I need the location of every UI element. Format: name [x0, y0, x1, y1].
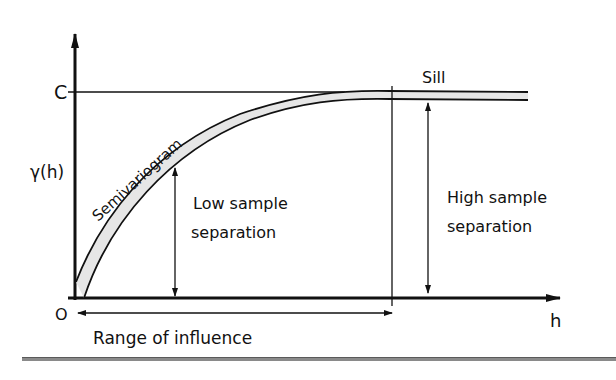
low-separation-label-line2: separation — [191, 223, 276, 242]
y-axis-label: γ(h) — [30, 162, 64, 182]
sill-label: Sill — [422, 68, 446, 87]
origin-label: O — [55, 305, 68, 324]
semivariogram-diagram: C γ(h) O h Sill Semivariogram Low sample… — [0, 0, 616, 380]
x-axis-label: h — [550, 310, 561, 331]
semivariogram-label: Semivariogram — [89, 135, 186, 225]
low-separation-label-line1: Low sample — [193, 194, 288, 213]
sill-level-label: C — [54, 81, 67, 103]
range-label: Range of influence — [93, 328, 252, 348]
bottom-divider — [22, 357, 616, 361]
high-separation-label-line1: High sample — [447, 188, 547, 207]
high-separation-label-line2: separation — [447, 217, 532, 236]
